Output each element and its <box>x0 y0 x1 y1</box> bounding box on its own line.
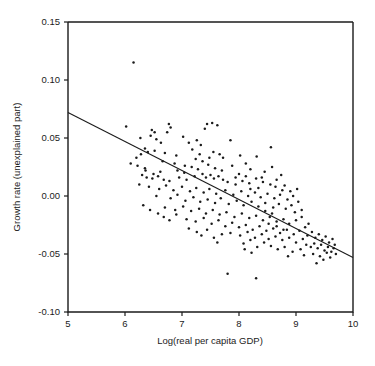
scatter-point <box>275 220 278 223</box>
scatter-plot-figure: 5678910 -0.10-0.050.000.050.100.15 Log(r… <box>0 0 375 366</box>
scatter-point <box>173 162 176 165</box>
regression-line <box>68 112 353 257</box>
scatter-point <box>153 131 156 134</box>
scatter-point <box>206 228 209 231</box>
scatter-point <box>313 242 316 245</box>
scatter-point <box>216 241 219 244</box>
scatter-point <box>159 170 162 173</box>
scatter-point <box>216 124 219 127</box>
scatter-point <box>157 175 160 178</box>
scatter-point <box>284 208 287 211</box>
scatter-point <box>291 250 294 253</box>
scatter-point <box>292 195 295 198</box>
scatter-point <box>238 226 241 229</box>
x-tick-label: 6 <box>122 318 127 329</box>
scatter-point <box>176 169 179 172</box>
scatter-point <box>201 173 204 176</box>
scatter-point <box>208 156 211 159</box>
scatter-point <box>198 208 201 211</box>
y-tick-label: 0.05 <box>42 132 61 143</box>
scatter-point <box>178 176 181 179</box>
scatter-point <box>262 181 265 184</box>
x-tick-label: 10 <box>348 318 359 329</box>
scatter-point <box>302 238 305 241</box>
scatter-point <box>129 162 132 165</box>
scatter-point <box>214 202 217 205</box>
scatter-point <box>331 238 334 241</box>
scatter-point <box>205 176 208 179</box>
scatter-point <box>286 228 289 231</box>
scatter-point <box>282 218 285 221</box>
scatter-point <box>311 231 314 234</box>
scatter-point <box>297 201 300 204</box>
scatter-point <box>327 246 330 249</box>
scatter-point <box>164 152 167 155</box>
scatter-point <box>202 191 205 194</box>
scatter-point <box>239 154 242 157</box>
scatter-point <box>310 246 313 249</box>
scatter-point <box>225 211 228 214</box>
scatter-point <box>217 219 220 222</box>
scatter-point <box>324 235 327 238</box>
scatter-point <box>158 188 161 191</box>
scatter-point <box>229 232 232 235</box>
y-tick-label: 0.10 <box>42 74 61 85</box>
scatter-point <box>307 223 310 226</box>
scatter-point <box>274 185 277 188</box>
scatter-point <box>155 138 158 141</box>
scatter-point <box>290 204 293 207</box>
scatter-point <box>286 198 289 201</box>
scatter-point <box>215 192 218 195</box>
scatter-point <box>272 206 275 209</box>
scatter-point <box>322 259 325 262</box>
scatter-point <box>175 154 178 157</box>
scatter-point <box>277 248 280 251</box>
scatter-point <box>242 204 245 207</box>
scatter-point <box>303 254 306 257</box>
scatter-point <box>254 191 257 194</box>
scatter-point <box>226 272 229 275</box>
scatter-point <box>139 137 142 140</box>
chart-canvas: 5678910 -0.10-0.050.000.050.100.15 Log(r… <box>0 0 375 366</box>
scatter-point <box>204 127 207 130</box>
x-axis-tick-labels: 5678910 <box>65 318 358 329</box>
scatter-point <box>255 155 258 158</box>
scatter-point <box>288 237 291 240</box>
scatter-point <box>169 126 172 129</box>
x-tick-label: 8 <box>236 318 241 329</box>
scatter-point <box>172 189 175 192</box>
scatter-point <box>265 230 268 233</box>
scatter-point <box>267 238 270 241</box>
scatter-point <box>224 189 227 192</box>
scatter-point <box>190 166 193 169</box>
scatter-point <box>164 206 167 209</box>
scatter-point <box>238 173 241 176</box>
scatter-point <box>249 239 252 242</box>
y-tick-label: -0.05 <box>38 248 60 259</box>
scatter-point <box>271 166 274 169</box>
scatter-point <box>144 167 147 170</box>
scatter-point <box>269 183 272 186</box>
x-axis-title: Log(real per capita GDP) <box>157 335 263 346</box>
scatter-point <box>233 216 236 219</box>
scatter-point <box>318 233 321 236</box>
scatter-point <box>319 255 322 258</box>
y-axis-title: Growth rate (unexplained part) <box>11 103 22 232</box>
scatter-point <box>153 150 156 153</box>
scatter-point <box>168 180 171 183</box>
scatter-point <box>208 188 211 191</box>
scatter-point <box>190 210 193 213</box>
scatter-point <box>248 182 251 185</box>
scatter-point <box>296 188 299 191</box>
scatter-point <box>263 241 266 244</box>
scatter-point <box>274 235 277 238</box>
scatter-point <box>227 203 230 206</box>
fit-line <box>68 112 353 257</box>
scatter-point <box>229 139 232 142</box>
scatter-point <box>280 174 283 177</box>
scatter-point <box>295 241 298 244</box>
scatter-point <box>250 252 253 255</box>
scatter-point <box>251 228 254 231</box>
scatter-point <box>249 188 252 191</box>
scatter-point <box>165 184 168 187</box>
